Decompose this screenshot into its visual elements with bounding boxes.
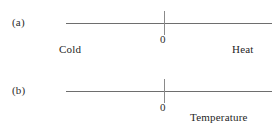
panel-b-label: (b) (12, 84, 25, 96)
panel-b-zero-label: 0 (160, 101, 166, 113)
panel-a-origin-tick (164, 11, 165, 35)
panel-a-zero-label: 0 (160, 33, 166, 45)
panel-b-temperature-label: Temperature (190, 111, 248, 123)
panel-a-cold-label: Cold (59, 43, 81, 55)
temperature-axis-figure: (a) 0 Cold Heat (b) 0 Temperature (0, 0, 276, 135)
panel-a-label: (a) (12, 16, 25, 28)
panel-b-axis-line (66, 91, 272, 92)
panel-a-axis-line (66, 23, 272, 24)
panel-a-heat-label: Heat (232, 43, 254, 55)
panel-b-origin-tick (164, 79, 165, 103)
